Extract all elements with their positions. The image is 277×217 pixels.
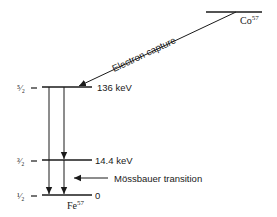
energy-label-ground: 0 bbox=[95, 190, 100, 201]
co57-label: Co57 bbox=[240, 14, 259, 26]
spin-label-5-2: ⁵⁄₂ bbox=[17, 83, 25, 93]
decay-scheme-diagram: Co57 Electron capture ⁵⁄₂ 136 keV ³⁄₂ 14… bbox=[0, 0, 277, 217]
fe57-label: Fe57 bbox=[67, 199, 85, 211]
spin-label-3-2: ³⁄₂ bbox=[17, 156, 24, 166]
electron-capture-label: Electron capture bbox=[110, 34, 177, 73]
spin-label-1-2: ¹⁄₂ bbox=[17, 191, 24, 201]
energy-label-14-4kev: 14.4 keV bbox=[95, 155, 133, 166]
mossbauer-transition-label: Mössbauer transition bbox=[114, 173, 202, 184]
energy-label-136kev: 136 keV bbox=[97, 82, 133, 93]
